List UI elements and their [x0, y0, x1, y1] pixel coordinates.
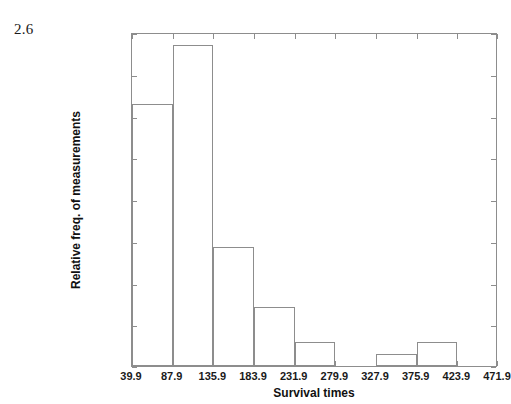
x-axis-tick: [254, 34, 255, 39]
y-axis-tick: [491, 76, 496, 77]
y-axis-tick: [132, 34, 137, 35]
figure-number: 2.6: [14, 21, 34, 38]
x-axis-tick: [213, 34, 214, 39]
x-axis-tick-label: 327.9: [361, 370, 389, 382]
x-axis-tick: [295, 361, 296, 366]
y-axis-tick: [132, 367, 137, 368]
x-axis-title: Survival times: [131, 386, 497, 400]
histogram-bar: [213, 247, 254, 366]
y-axis-tick: [132, 118, 137, 119]
y-axis-tick: [132, 159, 137, 160]
x-axis-tick: [173, 34, 174, 39]
histogram-bar: [417, 342, 458, 366]
y-axis-tick: [491, 201, 496, 202]
y-axis-tick: [132, 201, 137, 202]
y-axis-tick: [491, 326, 496, 327]
x-axis-tick: [417, 34, 418, 39]
y-axis-tick: [491, 34, 496, 35]
y-axis-tick: [491, 118, 496, 119]
x-axis-tick: [213, 361, 214, 366]
y-axis-title: Relative freq. of measurements: [69, 111, 83, 289]
y-axis-tick: [132, 326, 137, 327]
x-axis-tick: [132, 361, 133, 366]
y-axis-tick: [491, 285, 496, 286]
y-axis-tick: [132, 285, 137, 286]
x-axis-tick: [376, 361, 377, 366]
x-axis-tick-label: 375.9: [402, 370, 430, 382]
x-axis-tick: [497, 34, 498, 39]
x-axis-tick-label: 423.9: [443, 370, 471, 382]
y-axis-tick: [132, 76, 137, 77]
x-axis-tick-label: 39.9: [120, 370, 141, 382]
y-axis-tick: [132, 243, 137, 244]
x-axis-tick-label: 183.9: [239, 370, 267, 382]
x-axis-tick: [335, 34, 336, 39]
x-axis-tick: [457, 34, 458, 39]
x-axis-tick: [173, 361, 174, 366]
x-axis-tick: [295, 34, 296, 39]
x-axis-tick: [335, 361, 336, 366]
histogram-bar: [173, 45, 214, 366]
y-axis-tick: [491, 159, 496, 160]
histogram-bar: [376, 354, 417, 366]
x-axis-tick-label: 231.9: [280, 370, 308, 382]
histogram-bar: [132, 104, 173, 366]
x-axis-tick: [376, 34, 377, 39]
y-axis-tick: [491, 367, 496, 368]
histogram-bar: [295, 342, 336, 366]
plot-area: [132, 34, 496, 366]
x-axis-tick: [417, 361, 418, 366]
x-axis-tick-label: 135.9: [199, 370, 227, 382]
histogram-plot-frame: [131, 33, 497, 367]
x-axis-tick: [254, 361, 255, 366]
x-axis-tick-label: 471.9: [483, 370, 511, 382]
x-axis-tick: [497, 361, 498, 366]
y-axis-tick: [491, 243, 496, 244]
histogram-bar: [254, 307, 295, 366]
x-axis-tick: [457, 361, 458, 366]
x-axis-tick-label: 279.9: [321, 370, 349, 382]
x-axis-tick-label: 87.9: [161, 370, 182, 382]
